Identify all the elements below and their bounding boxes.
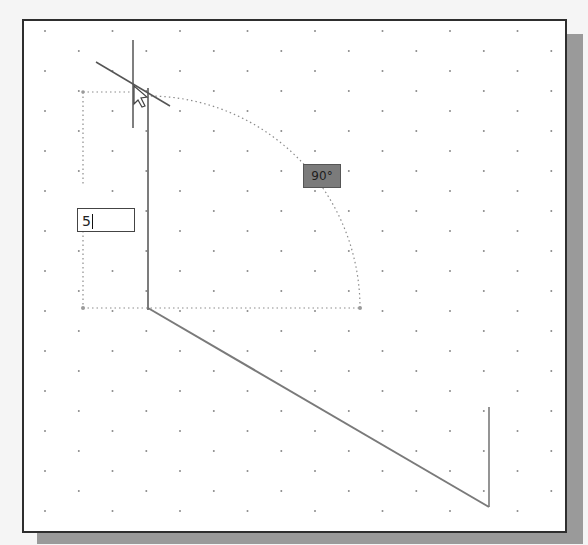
grid-dot <box>517 390 519 392</box>
grid-dot <box>213 250 215 252</box>
grid-dot <box>44 430 46 432</box>
dynamic-input-value: 5 <box>82 213 91 229</box>
grid-dot <box>517 430 519 432</box>
grid-dot <box>247 390 249 392</box>
grid-dot <box>449 510 451 512</box>
grid-dot <box>449 390 451 392</box>
grid-dot <box>112 510 114 512</box>
grid-dot <box>213 410 215 412</box>
grid-dot <box>348 130 350 132</box>
grid-dot <box>348 50 350 52</box>
grid-dot <box>44 310 46 312</box>
grid-dot <box>483 170 485 172</box>
grid-dot <box>280 50 282 52</box>
grid-dot <box>247 150 249 152</box>
grid-dot <box>382 30 384 32</box>
grid-dot <box>44 390 46 392</box>
grid-dot <box>382 70 384 72</box>
grid-dot <box>449 350 451 352</box>
grid-dot <box>280 450 282 452</box>
grid-dot <box>179 310 181 312</box>
grid-dot <box>112 470 114 472</box>
grid-dot <box>78 410 80 412</box>
grid-dot <box>44 190 46 192</box>
grid-dot <box>382 190 384 192</box>
grid-dot <box>44 30 46 32</box>
grid-dot <box>550 290 552 292</box>
grid-dot <box>78 250 80 252</box>
drawing-canvas[interactable]: 5 90° <box>22 19 567 533</box>
grid-dot <box>112 430 114 432</box>
grid-dot <box>247 30 249 32</box>
endpoint-markers <box>81 90 362 310</box>
grid-dot <box>483 370 485 372</box>
grid-dot <box>382 430 384 432</box>
grid-dot <box>449 270 451 272</box>
grid-dot <box>213 290 215 292</box>
dynamic-input-field[interactable]: 5 <box>77 208 135 232</box>
grid-dot <box>550 410 552 412</box>
grid-dot <box>112 30 114 32</box>
grid-dot <box>382 310 384 312</box>
grid-dot <box>314 470 316 472</box>
crosshair-cursor <box>96 40 170 128</box>
grid-dot <box>213 490 215 492</box>
grid-dot <box>314 110 316 112</box>
grid-dot <box>78 50 80 52</box>
grid-dot <box>550 130 552 132</box>
grid-dot <box>517 150 519 152</box>
grid-dot <box>483 330 485 332</box>
grid-dot <box>280 90 282 92</box>
grid-dot <box>517 190 519 192</box>
grid-dot <box>550 450 552 452</box>
grid-dot <box>483 450 485 452</box>
grid-dot <box>415 410 417 412</box>
diagonal-line <box>148 308 489 507</box>
grid-dot <box>280 250 282 252</box>
grid-dot <box>44 470 46 472</box>
grid-dot <box>179 110 181 112</box>
grid-dot <box>415 250 417 252</box>
grid-dot <box>78 330 80 332</box>
grid-dot <box>314 70 316 72</box>
grid-dot <box>145 130 147 132</box>
grid-dot <box>415 370 417 372</box>
grid-dot <box>112 270 114 272</box>
grid-dot <box>145 290 147 292</box>
grid-dot <box>179 190 181 192</box>
grid-dot <box>449 110 451 112</box>
grid-dot <box>112 110 114 112</box>
grid-dot <box>483 90 485 92</box>
grid-dot <box>247 190 249 192</box>
grid-dot <box>145 490 147 492</box>
grid-dot <box>78 170 80 172</box>
grid-dot <box>280 370 282 372</box>
grid-dot <box>314 30 316 32</box>
grid-dot <box>517 70 519 72</box>
screenshot-stage: 5 90° <box>0 0 588 545</box>
grid-dot <box>348 370 350 372</box>
grid-dot <box>314 190 316 192</box>
drawn-lines[interactable] <box>148 308 489 507</box>
grid-dot <box>112 350 114 352</box>
grid-dot <box>145 330 147 332</box>
grid-dot <box>247 470 249 472</box>
grid-dot <box>415 170 417 172</box>
grid-dot <box>517 270 519 272</box>
grid-dot <box>44 350 46 352</box>
grid-dot <box>382 510 384 512</box>
grid-dot <box>112 190 114 192</box>
grid-dot <box>78 90 80 92</box>
grid-dot <box>415 210 417 212</box>
grid-dot <box>517 30 519 32</box>
grid-dot <box>213 370 215 372</box>
angle-tooltip-label: 90° <box>311 169 332 183</box>
grid-dot <box>483 410 485 412</box>
grid-dot <box>382 110 384 112</box>
grid-dot <box>213 50 215 52</box>
grid-dot <box>415 450 417 452</box>
grid-dot <box>483 250 485 252</box>
grid-dot <box>112 390 114 392</box>
grid-dot <box>415 50 417 52</box>
grid-dot <box>348 250 350 252</box>
